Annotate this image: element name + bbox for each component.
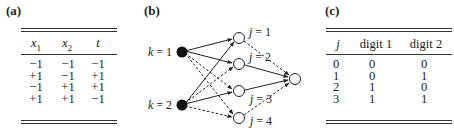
cell: 1 [412,93,436,105]
table-c-top-rule [326,28,452,29]
dashed-edges [185,41,289,117]
table-c-top-rule-2 [326,31,452,32]
hidden-node-j3 [234,86,245,97]
input-node-k1 [177,47,188,58]
table-c-bottom-rule [326,120,452,121]
panel-c-label: (c) [325,3,339,19]
output-node [290,74,301,85]
cell: 3 [328,93,344,105]
table-c-bottom-rule-2 [326,123,452,124]
network-diagram: k = 1 k = 2 j = 1 j = 2 j = 3 j = 4 [0,0,454,132]
table-c-header-rule [326,54,452,55]
table-c-header-digit1: digit 1 [352,38,400,50]
cell: 1 [360,93,384,105]
label-k1: k = 1 [148,45,172,59]
label-j1: j = 1 [247,25,271,39]
hidden-node-j1 [234,33,245,44]
hidden-node-j2 [234,59,245,70]
label-j2: j = 2 [247,50,271,64]
input-node-k2 [177,100,188,111]
label-k2: k = 2 [148,98,172,112]
label-j3: j = 3 [248,92,272,106]
table-c-header-j: j [328,38,348,50]
table-c-header-digit2: digit 2 [402,38,450,50]
hidden-node-j4 [234,113,245,124]
label-j4: j = 4 [248,114,272,128]
